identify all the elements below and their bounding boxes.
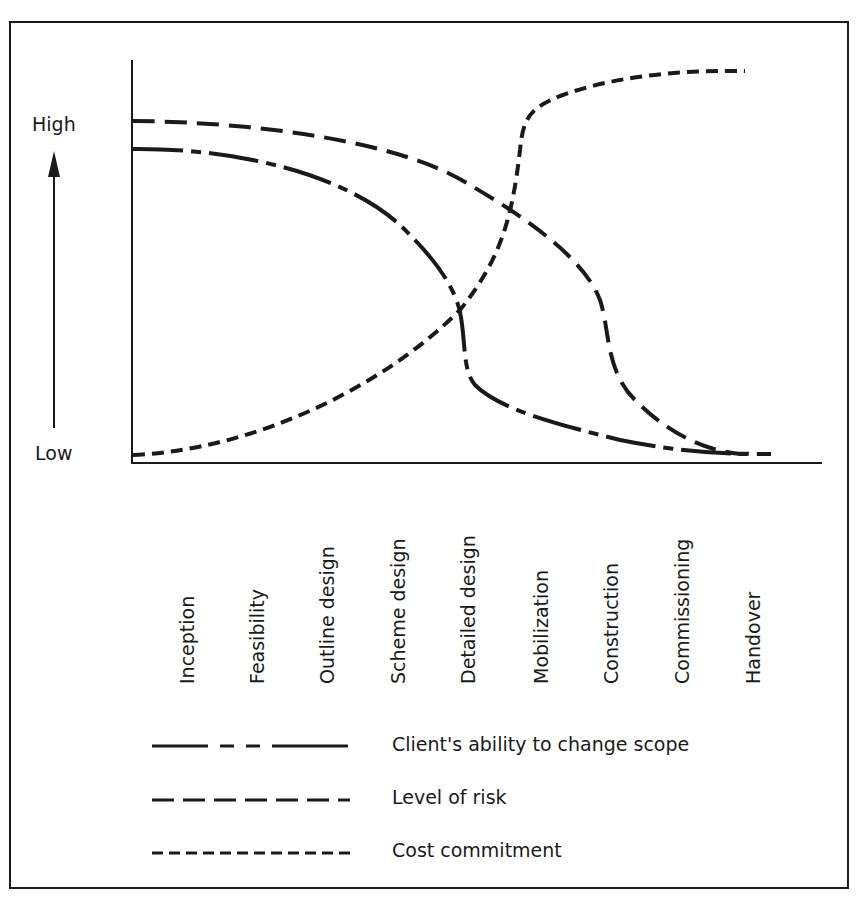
category-label: Inception bbox=[175, 484, 199, 684]
legend-label-cost-commitment: Cost commitment bbox=[392, 839, 562, 861]
y-label-low: Low bbox=[35, 442, 72, 464]
series-cost-commitment bbox=[133, 71, 745, 455]
category-label: Feasibility bbox=[245, 484, 269, 684]
category-label: Scheme design bbox=[386, 484, 410, 684]
y-label-high: High bbox=[32, 113, 76, 135]
category-label: Outline design bbox=[315, 484, 339, 684]
legend-label-level-of-risk: Level of risk bbox=[392, 786, 507, 808]
arrow-up-icon bbox=[48, 151, 60, 177]
category-label: Detailed design bbox=[456, 484, 480, 684]
series-client-ability bbox=[133, 149, 771, 454]
legend-label-client-ability: Client's ability to change scope bbox=[392, 733, 689, 755]
chart-plot bbox=[0, 0, 866, 901]
category-label: Handover bbox=[741, 484, 765, 684]
category-label: Mobilization bbox=[529, 484, 553, 684]
category-label: Commissioning bbox=[670, 484, 694, 684]
category-label: Construction bbox=[599, 484, 623, 684]
